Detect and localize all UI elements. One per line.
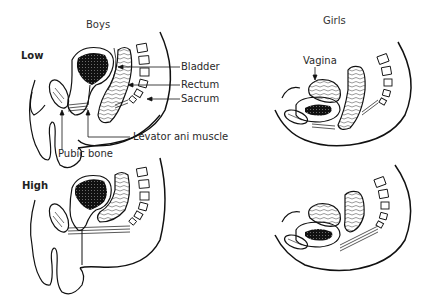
label-bladder: Bladder [181,61,220,73]
header-boys: Boys [86,19,110,30]
header-girls: Girls [323,15,346,26]
label-sacrum: Sacrum [181,93,219,105]
label-rectum: Rectum [181,79,219,91]
label-levator-ani-muscle: Levator ani muscle [133,131,228,143]
girls-low-diagram [275,42,411,146]
label-pubic-bone: Pubic bone [58,148,113,160]
row-label-high: High [22,180,48,191]
row-label-low: Low [21,50,43,61]
girls-high-diagram [275,165,411,270]
boys-high-diagram [31,158,165,294]
label-vagina: Vagina [303,55,337,67]
girls-low-leaders [313,67,317,80]
